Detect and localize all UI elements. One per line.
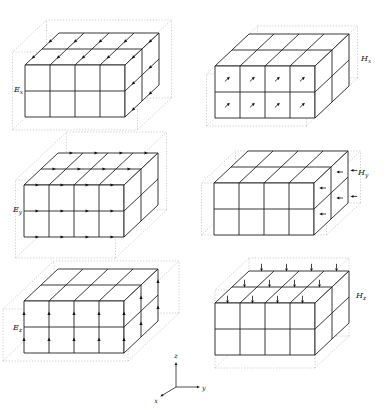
axes-arrows (160, 362, 200, 397)
hx-block (207, 26, 358, 126)
panel-Hy: Hy (202, 151, 369, 235)
ez-block (3, 261, 179, 361)
axis-x-label: x (154, 397, 158, 405)
panel-Ez: Ez (3, 261, 179, 361)
panel-Ey: Ey (12, 132, 167, 258)
coordinate-axes: z y x (154, 352, 206, 405)
label-Hy: Hy (357, 168, 369, 179)
hy-block (202, 151, 361, 235)
label-Ez: Ez (12, 323, 23, 333)
axis-z-label: z (173, 352, 178, 360)
ex-block (13, 20, 172, 130)
hz-block (215, 258, 349, 368)
panel-Ex: Ex (13, 20, 172, 130)
ey-block (16, 132, 167, 258)
label-Ex: Ex (13, 85, 24, 95)
yee-grid-figure: Ex Hx Ey Hy Ez Hz z y x (0, 0, 391, 410)
label-Ey: Ey (12, 205, 23, 216)
panel-Hx: Hx (207, 26, 372, 126)
figure-svg: Ex Hx Ey Hy Ez Hz z y x (0, 0, 391, 410)
label-Hx: Hx (360, 54, 372, 64)
panel-Hz: Hz (215, 258, 367, 368)
axis-y-label: y (201, 384, 206, 392)
label-Hz: Hz (355, 291, 367, 301)
